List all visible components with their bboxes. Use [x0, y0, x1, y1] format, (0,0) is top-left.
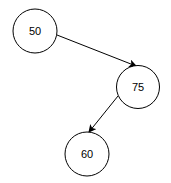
node-75: 75: [117, 66, 160, 109]
node-label: 60: [81, 148, 93, 160]
edge-75-to-60: [89, 96, 118, 132]
node-60: 60: [65, 132, 109, 176]
node-label: 75: [132, 81, 144, 93]
node-50: 50: [13, 9, 57, 53]
edge-50-to-75: [57, 35, 136, 66]
node-label: 50: [29, 25, 41, 37]
bst-diagram: 50 75 60: [0, 0, 171, 183]
